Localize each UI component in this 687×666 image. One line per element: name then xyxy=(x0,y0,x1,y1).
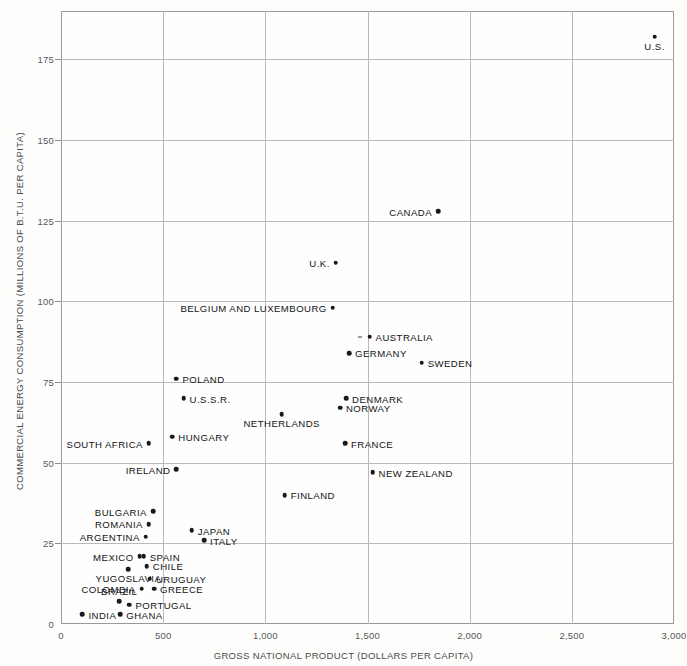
x-tick-label: 3,000 xyxy=(662,630,687,641)
y-tick-label: 50 xyxy=(30,457,54,468)
data-point-label: AUSTRALIA xyxy=(376,332,433,343)
data-point[interactable] xyxy=(152,586,157,591)
y-axis-title: COMMERCIAL ENERGY CONSUMPTION (MILLIONS … xyxy=(14,132,25,490)
gridline-horizontal xyxy=(61,221,674,222)
data-point-label: BULGARIA xyxy=(95,506,147,517)
data-point[interactable] xyxy=(139,586,144,591)
gridline-horizontal xyxy=(61,59,674,60)
data-point-label: POLAND xyxy=(182,374,224,385)
data-point-label: INDIA xyxy=(88,609,116,620)
x-tick-label: 2,000 xyxy=(457,630,482,641)
data-point-label: BRAZIL xyxy=(101,586,137,597)
y-tick-label: 75 xyxy=(30,377,54,388)
y-tick-mark xyxy=(55,463,61,464)
data-point[interactable] xyxy=(419,360,424,365)
data-point-label: SWEDEN xyxy=(428,358,473,369)
data-point[interactable] xyxy=(347,351,352,356)
gridline-horizontal xyxy=(61,140,674,141)
data-point[interactable] xyxy=(279,412,284,417)
y-tick-label: 175 xyxy=(30,54,54,65)
data-point[interactable] xyxy=(80,612,85,617)
data-point-label: GERMANY xyxy=(355,348,407,359)
data-point-label: ITALY xyxy=(210,535,237,546)
data-point-label: GHANA xyxy=(126,609,162,620)
data-point-label: NEW ZEALAND xyxy=(379,467,453,478)
data-point[interactable] xyxy=(126,567,131,572)
data-point[interactable] xyxy=(117,599,122,604)
gridline-horizontal xyxy=(61,382,674,383)
y-tick-label: 25 xyxy=(30,538,54,549)
gridline-horizontal xyxy=(61,543,674,544)
y-tick-label: 100 xyxy=(30,296,54,307)
gridline-vertical xyxy=(470,11,471,624)
data-point-label: NORWAY xyxy=(346,403,391,414)
gridline-vertical xyxy=(572,11,573,624)
data-point-label: ROMANIA xyxy=(95,519,143,530)
y-tick-label: 125 xyxy=(30,215,54,226)
data-point[interactable] xyxy=(151,509,156,514)
data-point-label: MEXICO xyxy=(93,551,134,562)
data-point-label: IRELAND xyxy=(126,464,171,475)
y-tick-mark xyxy=(55,301,61,302)
data-point[interactable] xyxy=(338,406,343,411)
data-point[interactable] xyxy=(189,528,194,533)
data-point[interactable] xyxy=(334,260,339,265)
data-point[interactable] xyxy=(127,602,132,607)
data-point[interactable] xyxy=(147,441,152,446)
data-point[interactable] xyxy=(170,435,175,440)
data-point-label: U.K. xyxy=(309,258,329,269)
data-point[interactable] xyxy=(282,493,287,498)
y-tick-label: 150 xyxy=(30,135,54,146)
data-point[interactable] xyxy=(147,522,152,527)
data-point[interactable] xyxy=(148,577,153,582)
data-point-label: GREECE xyxy=(160,584,203,595)
gridline-vertical xyxy=(163,11,164,624)
scan-artifact-dash xyxy=(358,336,362,337)
y-tick-label: 0 xyxy=(30,619,54,630)
data-point-label: BELGIUM AND LUXEMBOURG xyxy=(180,303,326,314)
data-point[interactable] xyxy=(652,35,657,40)
x-tick-label: 500 xyxy=(155,630,171,641)
data-point-label: CHILE xyxy=(153,561,184,572)
data-point[interactable] xyxy=(344,396,349,401)
data-point[interactable] xyxy=(174,467,179,472)
data-point[interactable] xyxy=(436,209,441,214)
data-point-label: SOUTH AFRICA xyxy=(67,438,143,449)
data-point[interactable] xyxy=(141,554,146,559)
x-axis-title: GROSS NATIONAL PRODUCT (DOLLARS PER CAPI… xyxy=(0,650,687,661)
y-tick-mark xyxy=(55,382,61,383)
data-point-label: U.S. xyxy=(644,41,664,52)
data-point[interactable] xyxy=(367,335,372,340)
data-point[interactable] xyxy=(181,396,186,401)
data-point-label: CANADA xyxy=(389,206,432,217)
x-tick-label: 2,500 xyxy=(559,630,584,641)
data-point-label: FINLAND xyxy=(291,490,335,501)
y-tick-mark xyxy=(55,543,61,544)
data-point[interactable] xyxy=(174,377,179,382)
data-point-label: NETHERLANDS xyxy=(243,418,319,429)
data-point-label: ARGENTINA xyxy=(80,532,140,543)
data-point-label: FRANCE xyxy=(351,438,393,449)
gridline-horizontal xyxy=(61,301,674,302)
x-tick-label: 0 xyxy=(58,630,63,641)
gridline-vertical xyxy=(265,11,266,624)
data-point[interactable] xyxy=(343,441,348,446)
y-tick-mark xyxy=(55,59,61,60)
y-tick-mark xyxy=(55,140,61,141)
data-point[interactable] xyxy=(145,564,150,569)
x-tick-label: 1,000 xyxy=(253,630,278,641)
data-point[interactable] xyxy=(330,306,335,311)
data-point-label: HUNGARY xyxy=(178,432,229,443)
y-tick-mark xyxy=(55,221,61,222)
data-point[interactable] xyxy=(370,470,375,475)
chart-canvas: U.S.CANADAU.K.BELGIUM AND LUXEMBOURGAUST… xyxy=(0,0,687,666)
x-tick-label: 1,500 xyxy=(355,630,380,641)
data-point[interactable] xyxy=(144,535,149,540)
data-point[interactable] xyxy=(202,538,207,543)
data-point[interactable] xyxy=(118,612,123,617)
data-point-label: U.S.S.R. xyxy=(190,393,231,404)
gridline-vertical xyxy=(368,11,369,624)
